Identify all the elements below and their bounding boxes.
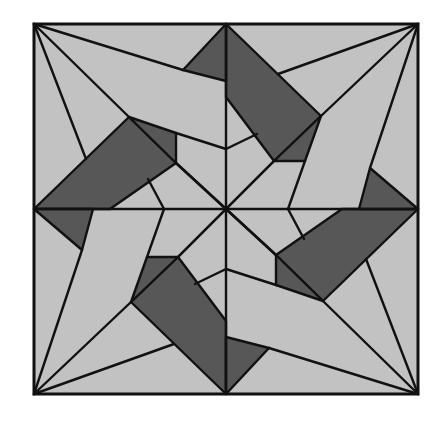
line-work — [34, 24, 418, 394]
quilt-block-diagram — [0, 0, 448, 423]
